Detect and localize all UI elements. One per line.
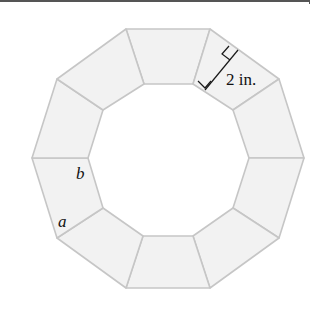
side-a-label: a [58, 212, 67, 231]
side-b-label: b [76, 164, 85, 183]
decagon-ring-diagram: 2 in. b a [0, 0, 319, 309]
height-label: 2 in. [226, 70, 256, 89]
trapezoid-tiles [32, 29, 304, 288]
